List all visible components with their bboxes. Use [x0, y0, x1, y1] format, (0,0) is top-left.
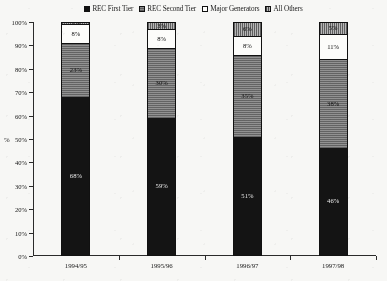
bar-segment-label: 8%: [71, 31, 80, 38]
bar-segment-rec-first-tier[interactable]: 46%: [319, 148, 348, 256]
bar-segment-label: 68%: [70, 173, 82, 180]
y-axis-tick-label: 80%: [15, 65, 27, 72]
y-axis-tick-label: 30%: [15, 182, 27, 189]
bar-group-1997-98[interactable]: 46%38%11%5%: [319, 22, 348, 256]
bar-segment-major-generators[interactable]: 11%: [319, 34, 348, 60]
legend-item-major-generators: Major Generators: [202, 5, 259, 13]
legend-swatch-icon-rec-second-tier: [139, 6, 145, 12]
legend-swatch-icon-major-generators: [202, 6, 208, 12]
chart-container: REC First Tier REC Second Tier Major Gen…: [0, 0, 387, 281]
bar-segment-label: 3%: [157, 23, 166, 29]
legend-item-rec-second-tier: REC Second Tier: [139, 5, 196, 13]
y-axis-tick-label: 50%: [15, 136, 27, 143]
bar-segment-label: 23%: [70, 67, 82, 74]
x-axis-tick-label: 1995/96: [150, 262, 172, 269]
legend-swatch-icon-all-others: [265, 6, 271, 12]
bar-segment-all-others[interactable]: 1%: [61, 22, 90, 24]
bar-segment-all-others[interactable]: 6%: [233, 22, 262, 36]
bar-segment-rec-first-tier[interactable]: 68%: [61, 97, 90, 256]
y-axis-tick-label: 10%: [15, 229, 27, 236]
x-axis-tick: [205, 256, 206, 260]
bar-series-group: 68%23%8%1%59%30%8%3%51%35%8%6%46%38%11%5…: [33, 22, 376, 256]
bar-segment-label: 6%: [243, 26, 252, 33]
legend-item-all-others: All Others: [265, 5, 302, 13]
x-axis-tick-label: 1994/95: [65, 262, 87, 269]
x-axis-tick-label: 1996/97: [236, 262, 258, 269]
x-axis-tick: [376, 256, 377, 260]
legend-swatch-icon-rec-first-tier: [84, 6, 90, 12]
bar-segment-rec-second-tier[interactable]: 30%: [147, 48, 176, 118]
bar-segment-label: 8%: [243, 43, 252, 50]
bar-segment-all-others[interactable]: 5%: [319, 22, 348, 34]
bar-segment-label: 35%: [241, 93, 253, 100]
y-axis-tick-label: 20%: [15, 206, 27, 213]
y-axis-tick-label: 90%: [15, 42, 27, 49]
chart-legend: REC First Tier REC Second Tier Major Gen…: [0, 5, 387, 13]
bar-segment-rec-second-tier[interactable]: 23%: [61, 43, 90, 97]
bar-segment-rec-first-tier[interactable]: 51%: [233, 137, 262, 256]
bar-segment-label: 1%: [71, 22, 80, 24]
legend-label-all-others: All Others: [273, 5, 302, 13]
x-axis-tick: [119, 256, 120, 260]
y-axis-title: %: [4, 136, 10, 143]
bar-segment-rec-second-tier[interactable]: 38%: [319, 59, 348, 148]
bar-segment-major-generators[interactable]: 8%: [233, 36, 262, 55]
y-axis-tick-label: 100%: [12, 19, 27, 26]
bar-segment-rec-second-tier[interactable]: 35%: [233, 55, 262, 137]
y-axis-tick-label: 70%: [15, 89, 27, 96]
legend-label-major-generators: Major Generators: [210, 5, 259, 13]
bar-group-1995-96[interactable]: 59%30%8%3%: [147, 22, 176, 256]
bar-segment-major-generators[interactable]: 8%: [61, 24, 90, 43]
bar-segment-label: 38%: [327, 101, 339, 108]
bar-segment-all-others[interactable]: 3%: [147, 22, 176, 29]
bar-segment-rec-first-tier[interactable]: 59%: [147, 118, 176, 256]
bar-segment-label: 59%: [156, 183, 168, 190]
bar-segment-label: 30%: [156, 80, 168, 87]
legend-item-rec-first-tier: REC First Tier: [84, 5, 133, 13]
bar-segment-label: 8%: [157, 36, 166, 43]
x-axis-tick-label: 1997/98: [322, 262, 344, 269]
plot-area: 0%10%20%30%40%50%60%70%80%90%100% 68%23%…: [33, 22, 376, 256]
y-axis-tick-label: 60%: [15, 112, 27, 119]
bar-segment-label: 46%: [327, 198, 339, 205]
bar-group-1994-95[interactable]: 68%23%8%1%: [61, 22, 90, 256]
legend-label-rec-second-tier: REC Second Tier: [147, 5, 196, 13]
y-axis-tick-label: 40%: [15, 159, 27, 166]
legend-label-rec-first-tier: REC First Tier: [92, 5, 133, 13]
bar-segment-label: 11%: [327, 44, 339, 51]
bar-group-1996-97[interactable]: 51%35%8%6%: [233, 22, 262, 256]
bar-segment-major-generators[interactable]: 8%: [147, 29, 176, 48]
y-axis-tick-label: 0%: [18, 253, 27, 260]
x-axis-tick: [290, 256, 291, 260]
bar-segment-label: 5%: [329, 25, 338, 32]
bar-segment-label: 51%: [241, 193, 253, 200]
y-axis-tick: [29, 256, 33, 257]
